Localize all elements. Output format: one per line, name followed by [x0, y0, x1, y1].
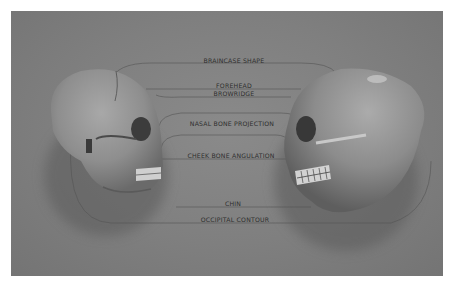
label-occipital-contour: OCCIPITAL CONTOUR: [201, 217, 270, 223]
skull-comparison-illustration: [11, 11, 443, 276]
nasal-lower-line: [161, 135, 291, 148]
label-chin: CHIN: [225, 201, 241, 207]
right-eye-socket: [296, 116, 316, 142]
left-eye-socket: [131, 117, 151, 141]
braincase-line: [111, 63, 336, 81]
label-forehead: FOREHEAD: [216, 83, 252, 89]
label-nasal-bone-projection: NASAL BONE PROJECTION: [190, 121, 274, 127]
label-cheek-bone-angulation: CHEEK BONE ANGULATION: [187, 153, 274, 159]
label-braincase-shape: BRAINCASE SHAPE: [204, 58, 265, 64]
photo-frame: BRAINCASE SHAPE FOREHEAD BROWRIDGE NASAL…: [11, 11, 443, 276]
label-browridge: BROWRIDGE: [214, 91, 255, 97]
